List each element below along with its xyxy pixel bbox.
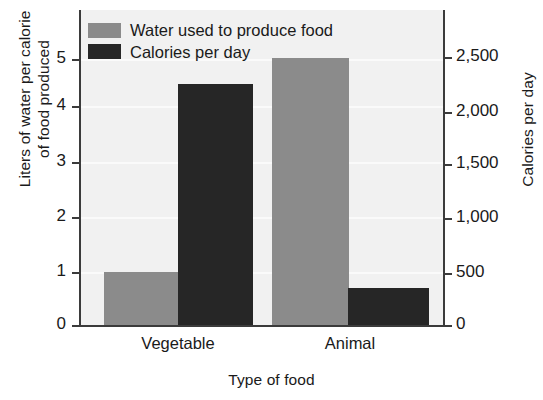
gridline-4 [81, 106, 443, 108]
y-right-axis-title: Calories per day [519, 44, 538, 214]
legend-swatch-water-icon [88, 23, 121, 38]
x-category-label-vegetable: Vegetable [103, 334, 253, 353]
bar-vegetable-calories [178, 84, 253, 325]
y-right-tick-1000 [444, 218, 452, 220]
y-right-tick-2500 [444, 57, 452, 59]
x-category-label-animal: Animal [277, 334, 423, 353]
legend-label-calories: Calories per day [130, 44, 250, 61]
x-axis-title: Type of food [0, 371, 543, 390]
legend-item-water: Water used to produce food [88, 22, 333, 39]
y-left-ticklabel-0: 0 [6, 314, 66, 334]
y-right-ticklabel-2500: 2,500 [456, 46, 516, 66]
y-right-ticklabel-1000: 1,000 [456, 207, 516, 227]
y-right-tick-0 [444, 325, 452, 327]
bar-vegetable-water [104, 272, 178, 325]
y-left-tick-2 [72, 217, 80, 219]
gridline-2 [81, 217, 443, 219]
legend-item-calories: Calories per day [88, 44, 333, 61]
y-left-axis-title-line1: Liters of water per calorie [16, 0, 35, 214]
bar-animal-water [272, 58, 349, 325]
y-left-axis-title-line2: of food produced [35, 0, 54, 214]
legend-swatch-calories-icon [88, 44, 121, 59]
legend: Water used to produce food Calories per … [88, 22, 333, 60]
y-right-tick-2000 [444, 112, 452, 114]
bar-chart: 5 4 3 2 1 0 2,500 2,000 1,500 1,000 500 … [0, 0, 543, 400]
y-left-tick-5 [72, 59, 80, 61]
y-right-tick-1500 [444, 164, 452, 166]
y-left-tick-1 [72, 272, 80, 274]
y-left-ticklabel-1: 1 [6, 261, 66, 281]
y-right-ticklabel-2000: 2,000 [456, 101, 516, 121]
x-axis-line [79, 325, 445, 327]
y-right-tick-500 [444, 273, 452, 275]
gridline-3 [81, 162, 443, 164]
bar-animal-calories [348, 288, 429, 325]
y-left-tick-4 [72, 106, 80, 108]
legend-label-water: Water used to produce food [130, 22, 333, 39]
y-left-axis-title: Liters of water per calorie of food prod… [16, 0, 54, 214]
y-left-tick-0 [72, 325, 80, 327]
y-left-tick-3 [72, 162, 80, 164]
y-left-axis-line [79, 10, 81, 327]
y-right-ticklabel-0: 0 [456, 314, 516, 334]
y-right-ticklabel-500: 500 [456, 262, 516, 282]
y-right-ticklabel-1500: 1,500 [456, 153, 516, 173]
